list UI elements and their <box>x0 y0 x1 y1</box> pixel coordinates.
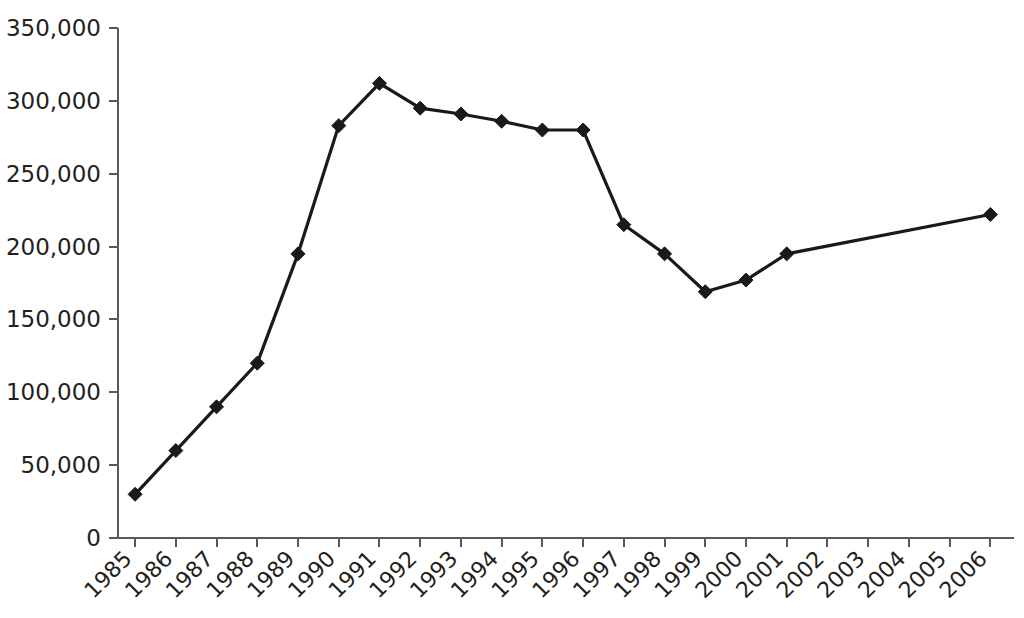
y-tick-label: 200,000 <box>6 234 101 260</box>
y-tick-label: 0 <box>86 525 101 551</box>
data-point-marker <box>495 114 509 128</box>
chart-canvas: 050,000100,000150,000200,000250,000300,0… <box>0 0 1024 618</box>
series-markers <box>128 76 997 501</box>
x-tick-marks <box>135 538 990 547</box>
x-tick-labels: 1985198619871988198919901991199219931994… <box>79 546 992 603</box>
y-axis-group: 050,000100,000150,000200,000250,000300,0… <box>6 15 118 551</box>
series-group <box>128 76 997 501</box>
y-tick-label: 350,000 <box>6 15 101 41</box>
line-chart: 050,000100,000150,000200,000250,000300,0… <box>0 0 1024 618</box>
data-point-marker <box>291 247 305 261</box>
data-point-marker <box>535 123 549 137</box>
y-tick-label: 250,000 <box>6 161 101 187</box>
y-tick-marks <box>109 28 118 538</box>
data-point-marker <box>576 123 590 137</box>
y-tick-label: 300,000 <box>6 88 101 114</box>
y-tick-label: 50,000 <box>21 452 101 478</box>
data-point-marker <box>983 208 997 222</box>
x-tick-label: 2006 <box>935 546 992 603</box>
x-axis-group: 1985198619871988198919901991199219931994… <box>79 538 1014 603</box>
y-tick-label: 150,000 <box>6 306 101 332</box>
data-point-marker <box>454 107 468 121</box>
y-tick-labels: 050,000100,000150,000200,000250,000300,0… <box>6 15 101 551</box>
data-point-marker <box>413 101 427 115</box>
y-tick-label: 100,000 <box>6 379 101 405</box>
series-line <box>135 83 990 494</box>
